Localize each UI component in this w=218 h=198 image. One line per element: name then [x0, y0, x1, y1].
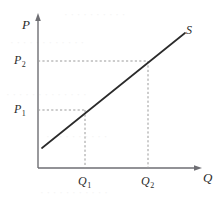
supply-curve-group: [42, 33, 185, 148]
y-axis-arrowhead: [35, 13, 41, 21]
tick-label-p1: P1: [14, 103, 25, 115]
supply-curve-line: [42, 33, 185, 148]
axes-group: [35, 13, 202, 171]
supply-curve-label: S: [186, 24, 192, 36]
tick-label-q2: Q2: [141, 175, 154, 187]
y-axis-label-price: P: [22, 18, 30, 31]
x-axis-label-quantity: Q: [203, 171, 212, 184]
tick-label-q1: Q1: [78, 175, 91, 187]
supply-curve-figure: · · · · · · · · · · · · · · · · · · · · …: [0, 0, 218, 198]
tick-label-p2: P2: [14, 54, 25, 66]
x-axis-arrowhead: [194, 165, 202, 171]
